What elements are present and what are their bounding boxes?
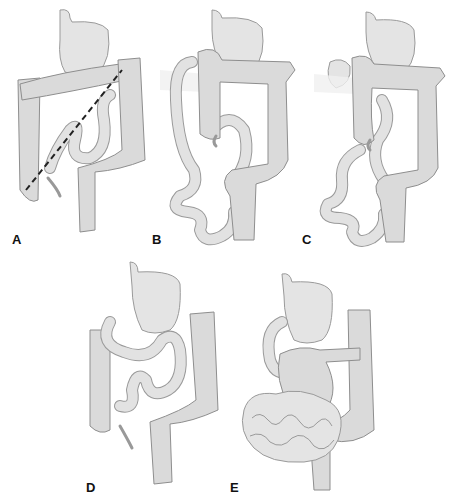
panel-label-e: E [230, 480, 239, 495]
panel-d: D [80, 250, 230, 499]
panel-e: E [230, 250, 387, 499]
panel-a: A [0, 0, 150, 250]
intestine-illustration-c [300, 0, 457, 250]
panel-label-b: B [152, 232, 161, 247]
intestine-illustration-d [80, 250, 230, 499]
panel-label-a: A [12, 232, 21, 247]
panel-label-d: D [86, 480, 95, 495]
panel-label-c: C [302, 232, 311, 247]
intestine-illustration-b [150, 0, 305, 250]
intestine-illustration-a [0, 0, 150, 250]
panel-c: C [300, 0, 457, 250]
intestine-illustration-e [230, 250, 387, 499]
panel-b: B [150, 0, 305, 250]
